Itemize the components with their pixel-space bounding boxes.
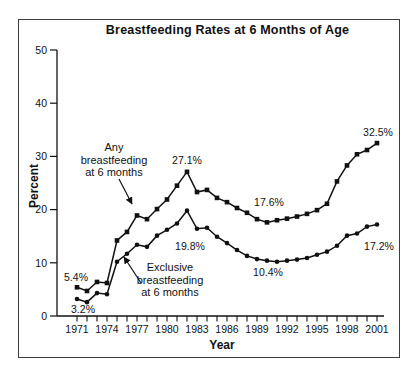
data-point-circle: [235, 248, 240, 253]
x-tick-label: 1998: [335, 323, 359, 335]
series-line-square: [77, 143, 377, 291]
data-point-circle: [305, 256, 310, 261]
point-label: 32.5%: [363, 126, 393, 138]
x-tick-label: 2001: [365, 323, 389, 335]
y-tick-label: 50: [35, 44, 47, 56]
data-point-circle: [185, 208, 190, 213]
data-point-circle: [285, 258, 290, 263]
point-label: 10.4%: [253, 266, 283, 278]
data-point-circle: [315, 253, 320, 258]
data-point-circle: [135, 242, 140, 247]
point-label: 3.2%: [71, 303, 95, 315]
data-point-circle: [335, 243, 340, 248]
y-tick-label: 30: [35, 150, 47, 162]
data-point-square: [175, 183, 180, 188]
data-point-square: [315, 208, 320, 213]
data-point-square: [105, 281, 110, 286]
data-point-square: [305, 212, 310, 217]
data-point-circle: [355, 231, 360, 236]
x-tick-label: 1974: [95, 323, 119, 335]
data-point-circle: [295, 257, 300, 262]
x-tick-label: 1989: [245, 323, 269, 335]
data-point-circle: [345, 233, 350, 238]
data-point-square: [285, 216, 290, 221]
data-point-circle: [375, 222, 380, 227]
data-point-circle: [365, 224, 370, 229]
data-point-circle: [125, 251, 130, 256]
data-point-circle: [265, 258, 270, 263]
data-point-circle: [215, 234, 220, 239]
data-point-square: [255, 217, 260, 222]
annotation-arrow: [124, 257, 141, 283]
data-point-square: [225, 200, 230, 205]
data-point-square: [195, 190, 200, 195]
data-point-square: [215, 196, 220, 201]
data-point-circle: [155, 233, 160, 238]
data-point-square: [295, 214, 300, 219]
data-point-square: [205, 188, 210, 193]
data-point-square: [125, 230, 130, 235]
data-point-circle: [75, 297, 80, 302]
data-point-circle: [145, 245, 150, 250]
x-tick-label: 1995: [305, 323, 329, 335]
point-label: 17.6%: [254, 196, 284, 208]
data-point-square: [275, 218, 280, 223]
x-tick-label: 1992: [275, 323, 299, 335]
y-tick-label: 0: [41, 310, 47, 322]
data-point-circle: [115, 259, 120, 264]
data-point-square: [325, 201, 330, 206]
data-point-square: [355, 152, 360, 157]
data-point-circle: [105, 292, 110, 297]
data-point-square: [185, 170, 190, 175]
data-point-square: [115, 238, 120, 243]
data-point-square: [365, 148, 370, 153]
data-point-circle: [195, 226, 200, 231]
annotation-arrow: [119, 179, 132, 204]
chart-plot-area: 0102030405019711974197719801983198619891…: [0, 0, 415, 377]
data-point-square: [145, 217, 150, 222]
data-point-circle: [245, 254, 250, 259]
data-point-square: [245, 210, 250, 215]
data-point-square: [75, 285, 80, 290]
data-point-square: [135, 213, 140, 218]
point-label: 5.4%: [64, 271, 88, 283]
data-point-circle: [95, 291, 100, 296]
y-tick-label: 10: [35, 257, 47, 269]
data-point-square: [235, 206, 240, 211]
point-label: 17.2%: [364, 240, 394, 252]
data-point-circle: [325, 249, 330, 254]
data-point-square: [345, 163, 350, 168]
x-tick-label: 1983: [185, 323, 209, 335]
figure-canvas: Breastfeeding Rates at 6 Months of Age P…: [0, 0, 415, 377]
data-point-circle: [175, 221, 180, 226]
x-tick-label: 1986: [215, 323, 239, 335]
data-point-square: [375, 141, 380, 146]
x-tick-label: 1977: [125, 323, 149, 335]
data-point-square: [155, 207, 160, 212]
data-point-circle: [225, 241, 230, 246]
point-label: 27.1%: [172, 154, 202, 166]
x-tick-label: 1980: [155, 323, 179, 335]
series-line-circle: [77, 211, 377, 303]
y-tick-label: 40: [35, 97, 47, 109]
data-point-square: [95, 280, 100, 285]
point-label: 19.8%: [175, 240, 205, 252]
data-point-square: [265, 220, 270, 225]
data-point-circle: [205, 225, 210, 230]
data-point-square: [335, 179, 340, 184]
data-point-square: [85, 289, 90, 294]
y-tick-label: 20: [35, 203, 47, 215]
data-point-circle: [255, 257, 260, 262]
data-point-square: [165, 197, 170, 202]
x-tick-label: 1971: [65, 323, 89, 335]
data-point-circle: [165, 228, 170, 233]
data-point-circle: [275, 259, 280, 264]
